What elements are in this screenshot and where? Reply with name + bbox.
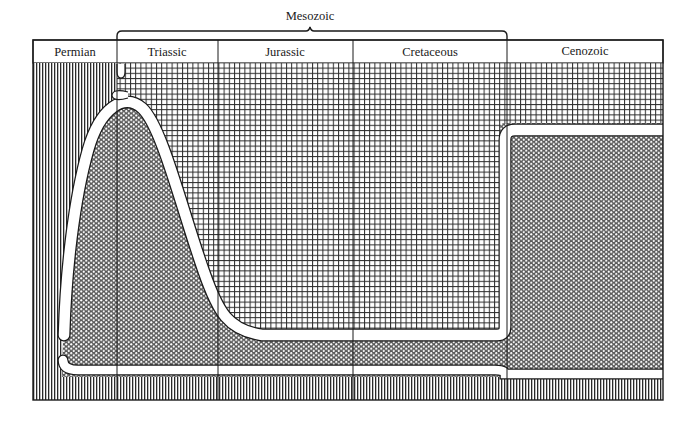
period-label-cretaceous: Cretaceous (402, 45, 458, 59)
period-label-permian: Permian (54, 45, 96, 59)
period-header-row: Permian Triassic Jurassic Cretaceous Cen… (33, 40, 663, 63)
diagram-body (33, 63, 663, 400)
period-label-jurassic: Jurassic (265, 45, 305, 59)
period-label-cenozoic: Cenozoic (561, 44, 609, 58)
mesozoic-label: Mesozoic (286, 9, 335, 23)
curve-loop (117, 64, 125, 78)
mesozoic-bracket: Mesozoic (117, 9, 507, 40)
period-label-triassic: Triassic (147, 45, 187, 59)
geologic-diagram: Mesozoic Permian Triassic Jurassic Creta… (0, 0, 694, 423)
